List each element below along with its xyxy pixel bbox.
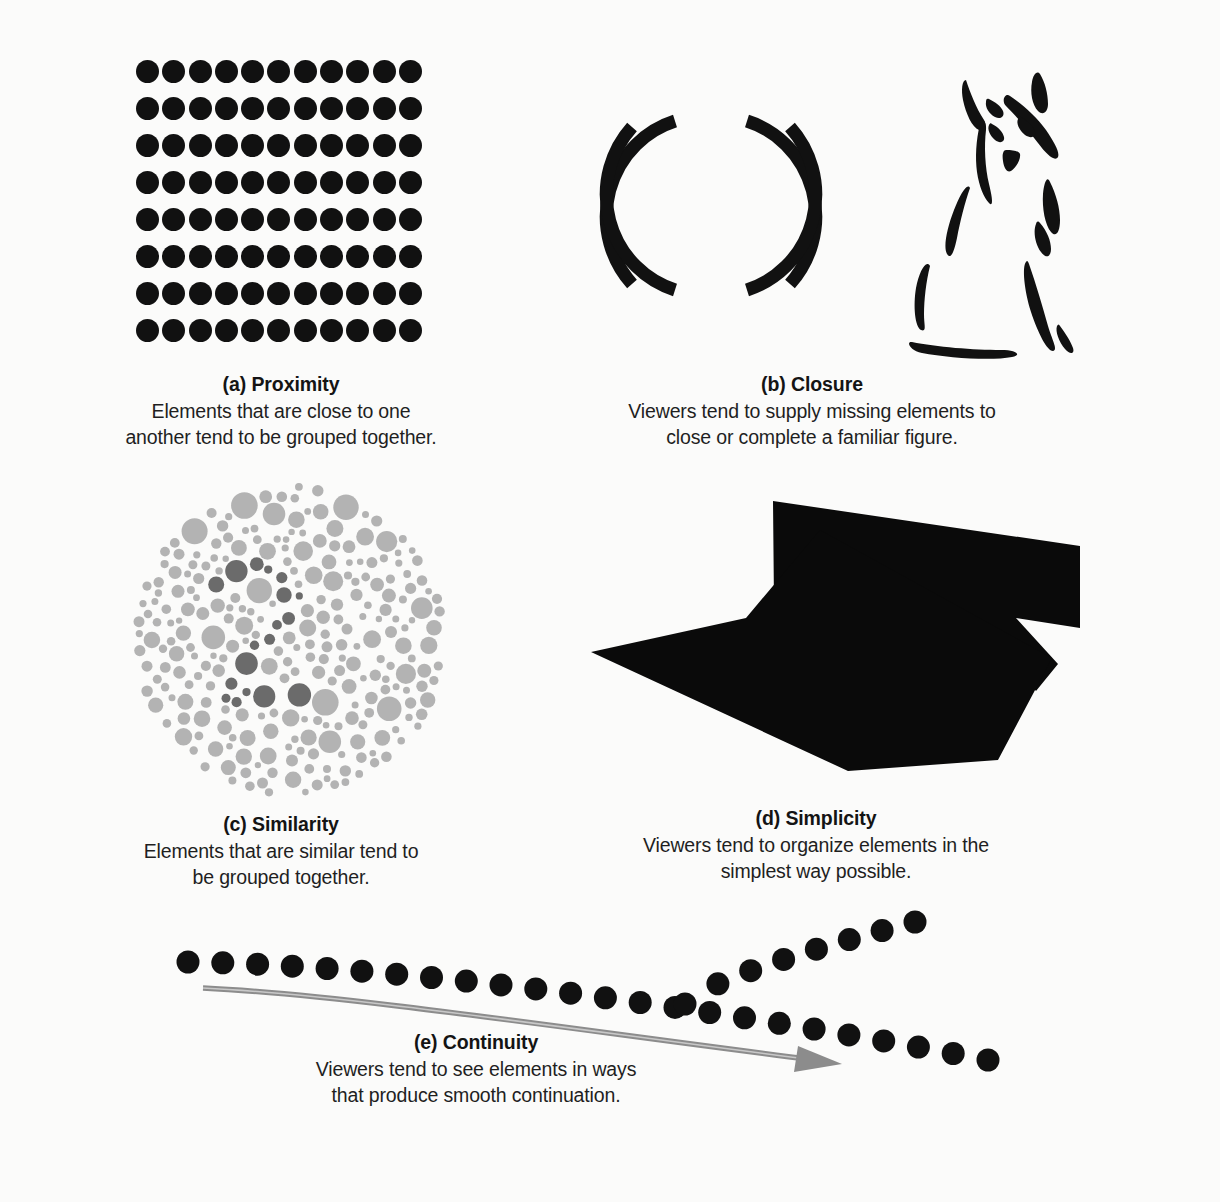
proximity-dot xyxy=(320,97,343,120)
proximity-dot xyxy=(373,171,396,194)
similarity-dot-light xyxy=(260,748,277,765)
similarity-dot-light xyxy=(417,575,428,586)
similarity-dot-dark xyxy=(222,694,231,703)
similarity-dot-light xyxy=(193,551,200,558)
proximity-dot xyxy=(346,319,369,342)
caption-title-simplicity: (d) Simplicity xyxy=(586,806,1046,831)
continuity-dot-ascending xyxy=(772,948,795,971)
similarity-dot-light xyxy=(313,534,327,548)
similarity-dot-light xyxy=(434,606,444,616)
similarity-dot-light xyxy=(162,604,172,614)
proximity-dot xyxy=(399,97,422,120)
similarity-dot-light xyxy=(392,615,399,622)
similarity-dot-light xyxy=(285,772,301,788)
similarity-dot-light xyxy=(412,555,423,566)
similarity-dot-light xyxy=(263,503,286,526)
proximity-dot xyxy=(241,208,264,231)
similarity-dot-light xyxy=(231,540,247,556)
similarity-dot-light xyxy=(352,702,359,709)
proximity-dot xyxy=(189,208,212,231)
similarity-dot-light xyxy=(376,531,397,552)
similarity-dot-light xyxy=(392,726,399,733)
similarity-dot-light xyxy=(313,504,329,520)
similarity-dot-light xyxy=(258,712,265,719)
proximity-dot xyxy=(267,208,290,231)
proximity-dot xyxy=(241,319,264,342)
similarity-dot-light xyxy=(236,748,252,764)
proximity-dot xyxy=(267,97,290,120)
similarity-dot-light xyxy=(302,789,309,796)
similarity-dot-light xyxy=(434,661,443,670)
similarity-dot-light xyxy=(370,758,379,767)
continuity-dot-descending xyxy=(490,973,513,996)
similarity-dot-light xyxy=(364,601,372,609)
proximity-dot-row xyxy=(136,208,426,245)
similarity-dot-light xyxy=(173,666,186,679)
proximity-dot xyxy=(215,171,238,194)
similarity-dot-light xyxy=(345,711,359,725)
proximity-dot xyxy=(294,171,317,194)
similarity-dot-light xyxy=(356,528,374,546)
caption-line-2-simplicity: simplest way possible. xyxy=(586,859,1046,884)
similarity-dot-light xyxy=(312,779,323,790)
proximity-dot xyxy=(399,319,422,342)
similarity-dot-light xyxy=(381,752,392,763)
similarity-dot-light xyxy=(344,571,352,579)
proximity-dot xyxy=(162,134,185,157)
similarity-dot-light xyxy=(226,743,233,750)
proximity-dot xyxy=(373,134,396,157)
proximity-dot xyxy=(189,319,212,342)
similarity-dot-light xyxy=(326,520,343,537)
proximity-dot xyxy=(267,60,290,83)
similarity-dot-light xyxy=(381,685,391,695)
continuity-dot-descending xyxy=(246,953,269,976)
similarity-dot-light xyxy=(242,527,249,534)
similarity-dot-light xyxy=(414,723,421,730)
continuity-dot-descending xyxy=(211,951,234,974)
proximity-dot xyxy=(215,60,238,83)
similarity-dot-light xyxy=(338,751,345,758)
proximity-dot-row xyxy=(136,60,426,97)
proximity-dot xyxy=(294,97,317,120)
similarity-dot-light xyxy=(185,680,194,689)
similarity-dot-light xyxy=(283,657,292,666)
similarity-dot-light xyxy=(221,705,230,714)
similarity-dot-light xyxy=(224,614,234,624)
similarity-dot-light xyxy=(286,755,298,767)
proximity-dot xyxy=(267,134,290,157)
continuity-dot-descending xyxy=(698,1001,721,1024)
proximity-dot xyxy=(241,60,264,83)
proximity-dot xyxy=(162,97,185,120)
similarity-dot-light xyxy=(247,608,254,615)
similarity-dot-light xyxy=(403,687,410,694)
similarity-dot-light xyxy=(319,731,342,754)
similarity-dot-light xyxy=(283,536,290,543)
similarity-dot-light xyxy=(161,560,169,568)
proximity-dot xyxy=(294,319,317,342)
similarity-dot-light xyxy=(299,530,306,537)
similarity-dot-light xyxy=(252,631,260,639)
similarity-dot-light xyxy=(134,645,145,656)
proximity-dot xyxy=(373,282,396,305)
proximity-dot xyxy=(241,97,264,120)
similarity-dot-light xyxy=(240,730,256,746)
similarity-dot-light xyxy=(208,741,223,756)
similarity-dot-light xyxy=(207,508,217,518)
similarity-dot-light xyxy=(191,653,198,660)
similarity-dot-light xyxy=(211,598,225,612)
similarity-dot-light xyxy=(330,780,339,789)
similarity-dot-light xyxy=(148,698,163,713)
similarity-dot-light xyxy=(277,491,288,502)
similarity-dot-light xyxy=(376,616,382,622)
similarity-dot-light xyxy=(155,589,162,596)
proximity-dot-row xyxy=(136,171,426,208)
similarity-dot-light xyxy=(163,719,172,728)
similarity-dot-light xyxy=(342,679,357,694)
proximity-dot xyxy=(320,319,343,342)
proximity-dot xyxy=(294,208,317,231)
similarity-dot-light xyxy=(409,547,416,554)
similarity-dot-light xyxy=(319,654,329,664)
proximity-dot xyxy=(294,134,317,157)
proximity-dot xyxy=(215,245,238,268)
similarity-dot-light xyxy=(226,604,233,611)
